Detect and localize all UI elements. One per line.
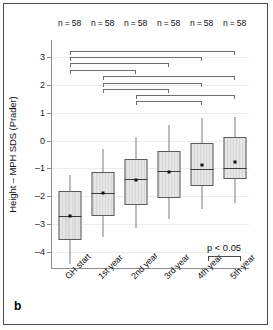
- mean-marker: [167, 171, 170, 174]
- significance-bracket: [70, 70, 136, 74]
- y-tick: [47, 85, 51, 86]
- significance-bracket: [136, 95, 235, 99]
- y-tick: [47, 113, 51, 114]
- y-tick: [47, 196, 51, 197]
- y-tick-label: 3: [40, 52, 45, 61]
- sample-size-label: n = 58: [91, 18, 114, 28]
- y-tick: [47, 57, 51, 58]
- box-plot: [218, 40, 251, 269]
- box-plot: [152, 40, 185, 269]
- y-tick: [47, 168, 51, 169]
- sample-size-label: n = 58: [190, 18, 213, 28]
- y-tick-label: –2: [35, 192, 45, 201]
- panel-letter: b: [14, 299, 21, 313]
- mean-marker: [200, 164, 203, 167]
- y-tick: [47, 141, 51, 142]
- y-tick-label: 0: [40, 136, 45, 145]
- y-tick-label: 2: [40, 80, 45, 89]
- box-plot: [119, 40, 152, 269]
- y-tick-label: –4: [35, 248, 45, 257]
- sample-size-label: n = 58: [223, 18, 246, 28]
- median-line: [223, 168, 246, 169]
- box-plot: [86, 40, 119, 269]
- p-value-bracket: [208, 256, 241, 261]
- box-iqr: [157, 151, 180, 198]
- y-tick: [47, 252, 51, 253]
- sample-size-label: n = 58: [157, 18, 180, 28]
- significance-bracket: [103, 76, 235, 80]
- mean-marker: [134, 178, 137, 181]
- significance-bracket: [70, 57, 202, 61]
- y-axis-line: [51, 40, 52, 269]
- sample-size-label: n = 58: [58, 18, 81, 28]
- box-iqr: [124, 159, 147, 205]
- box-iqr: [223, 137, 246, 180]
- y-axis-title: Height – MPH SDS (Prader): [7, 40, 21, 269]
- y-tick: [47, 224, 51, 225]
- plot-area: 3210–1–2–3–4 n = 58n = 58n = 58n = 58n =…: [51, 40, 249, 269]
- mean-marker: [68, 214, 71, 217]
- box-plot: [185, 40, 218, 269]
- median-line: [190, 169, 213, 170]
- y-tick-label: –1: [35, 164, 45, 173]
- y-tick-label: 1: [40, 108, 45, 117]
- box-plot: [53, 40, 86, 269]
- figure-panel-b: Height – MPH SDS (Prader) 3210–1–2–3–4 n…: [0, 0, 273, 330]
- significance-bracket: [70, 63, 169, 67]
- mean-marker: [233, 161, 236, 164]
- mean-marker: [101, 191, 104, 194]
- p-value-label: p < 0.05: [207, 242, 241, 253]
- significance-bracket: [136, 101, 202, 105]
- significance-bracket: [103, 89, 169, 93]
- significance-bracket: [70, 51, 235, 55]
- y-tick-label: –3: [35, 220, 45, 229]
- sample-size-label: n = 58: [124, 18, 147, 28]
- significance-bracket: [103, 83, 202, 87]
